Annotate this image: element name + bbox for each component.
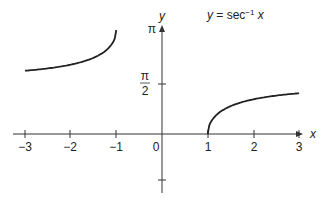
x-tick-label: 3 bbox=[296, 140, 303, 154]
x-tick-label: −1 bbox=[109, 140, 123, 154]
x-axis-label: x bbox=[309, 127, 317, 141]
x-tick-label: −3 bbox=[18, 140, 32, 154]
chart: −3 −2 −1 0 1 2 3 π π 2 x y y = sec−1 x bbox=[0, 0, 323, 203]
y-axis-arrow-icon bbox=[159, 25, 165, 32]
x-tick-label: 1 bbox=[205, 140, 212, 154]
y-tick-pi: π bbox=[148, 22, 156, 36]
y-tick-half-pi-denominator: 2 bbox=[142, 84, 149, 98]
left-branch-curve bbox=[25, 30, 116, 71]
origin-label: 0 bbox=[153, 140, 160, 154]
y-tick-half-pi-numerator: π bbox=[141, 69, 149, 83]
x-tick-label: −2 bbox=[63, 140, 77, 154]
right-branch-curve bbox=[208, 93, 299, 134]
chart-title: y = sec−1 x bbox=[206, 8, 265, 22]
x-tick-label: 2 bbox=[251, 140, 258, 154]
y-axis-label: y bbox=[158, 9, 166, 23]
